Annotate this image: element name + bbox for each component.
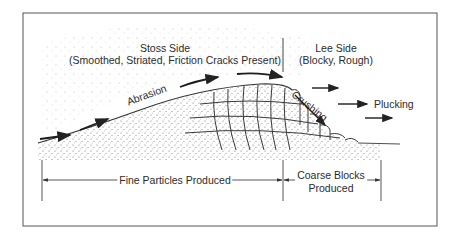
roche-moutonnee-diagram: Stoss Side (Smoothed, Striated, Friction… <box>0 0 454 235</box>
stoss-side-description: (Smoothed, Striated, Friction Cracks Pre… <box>69 54 281 66</box>
coarse-blocks-label-line1: Coarse Blocks <box>295 169 367 181</box>
diagram-artwork <box>0 0 454 235</box>
lee-side-description: (Blocky, Rough) <box>299 54 373 66</box>
coarse-blocks-label-line2: Produced <box>309 182 354 194</box>
stoss-side-heading: Stoss Side <box>140 42 190 54</box>
lee-side-heading: Lee Side <box>315 42 356 54</box>
plucking-label: Plucking <box>374 98 414 110</box>
fine-particles-label: Fine Particles Produced <box>117 174 232 186</box>
